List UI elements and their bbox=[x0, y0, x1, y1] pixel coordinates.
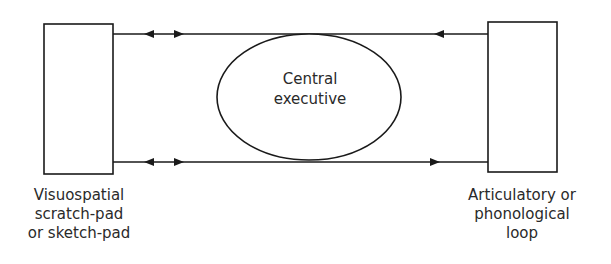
arrowhead-left-icon bbox=[144, 158, 154, 166]
arrowhead-right-icon bbox=[174, 30, 184, 38]
articulatory-line-1: Articulatory or bbox=[442, 186, 602, 205]
visuospatial-label: Visuospatial scratch-pad or sketch-pad bbox=[4, 186, 154, 243]
articulatory-line-3: loop bbox=[442, 224, 602, 243]
articulatory-line-2: phonological bbox=[442, 205, 602, 224]
central-executive-line-2: executive bbox=[247, 89, 373, 109]
visuospatial-line-3: or sketch-pad bbox=[4, 224, 154, 243]
arrowhead-left-icon bbox=[144, 30, 154, 38]
visuospatial-line-2: scratch-pad bbox=[4, 205, 154, 224]
visuospatial-line-1: Visuospatial bbox=[4, 186, 154, 205]
arrowhead-right-icon bbox=[430, 158, 440, 166]
articulatory-loop-box bbox=[488, 22, 557, 172]
visuospatial-box bbox=[44, 24, 113, 174]
articulatory-loop-label: Articulatory or phonological loop bbox=[442, 186, 602, 243]
arrowhead-right-icon bbox=[174, 158, 184, 166]
central-executive-line-1: Central bbox=[247, 69, 373, 89]
arrowhead-left-icon bbox=[434, 30, 444, 38]
central-executive-label: Central executive bbox=[247, 69, 373, 109]
